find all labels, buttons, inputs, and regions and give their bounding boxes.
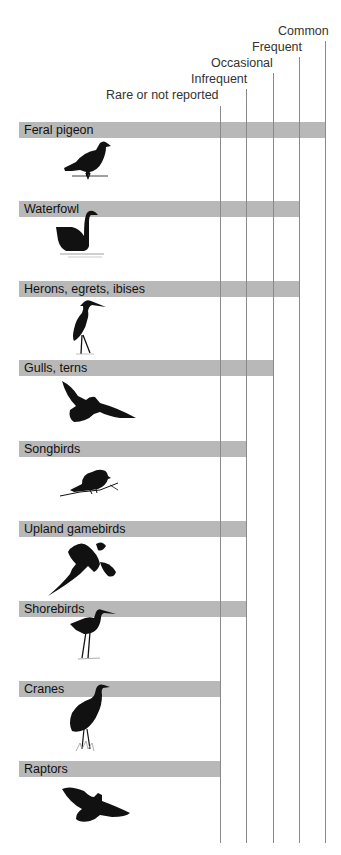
pheasant-icon bbox=[44, 540, 120, 598]
songbird-icon bbox=[60, 466, 122, 500]
raptor-icon bbox=[60, 785, 132, 827]
level-label-frequent: Frequent bbox=[252, 40, 302, 54]
level-label-rare: Rare or not reported bbox=[106, 88, 219, 102]
label-raptors: Raptors bbox=[24, 761, 68, 777]
level-label-common: Common bbox=[278, 24, 329, 38]
label-cranes: Cranes bbox=[24, 681, 64, 697]
gull-icon bbox=[60, 380, 138, 426]
gridline-common bbox=[325, 41, 326, 843]
gridline-rare bbox=[220, 106, 221, 843]
label-feral-pigeon: Feral pigeon bbox=[24, 122, 94, 138]
crane-icon bbox=[68, 683, 112, 755]
level-label-occasional: Occasional bbox=[211, 56, 273, 70]
stilt-icon bbox=[66, 608, 118, 664]
swan-icon bbox=[54, 210, 110, 260]
pigeon-icon bbox=[62, 140, 112, 185]
gridline-frequent bbox=[299, 57, 300, 843]
label-herons: Herons, egrets, ibises bbox=[24, 281, 145, 297]
level-label-infrequent: Infrequent bbox=[191, 72, 247, 86]
gridline-infrequent bbox=[246, 89, 247, 843]
label-upland-gamebirds: Upland gamebirds bbox=[24, 521, 125, 537]
heron-icon bbox=[72, 299, 108, 357]
label-songbirds: Songbirds bbox=[24, 441, 80, 457]
gridline-occasional bbox=[273, 73, 274, 843]
label-gulls: Gulls, terns bbox=[24, 360, 87, 376]
